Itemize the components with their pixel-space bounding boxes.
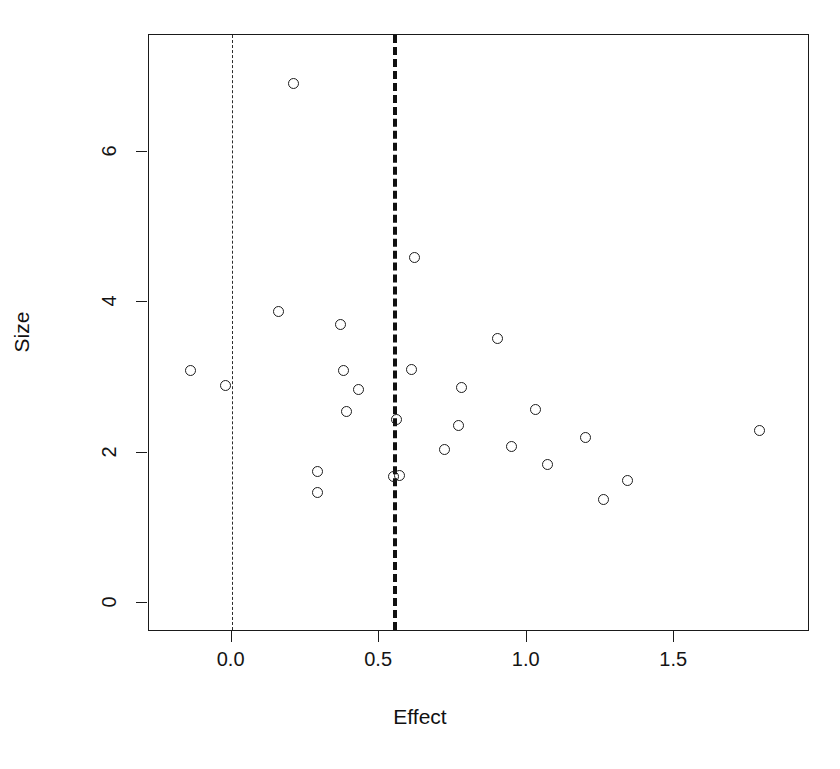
- data-point: [394, 470, 405, 481]
- y-axis-label: Size: [10, 312, 34, 353]
- x-axis-label: Effect: [0, 705, 840, 729]
- data-point: [439, 444, 450, 455]
- y-axis-tick: [136, 602, 147, 603]
- x-axis-tick-label: 0.0: [217, 648, 245, 671]
- y-axis-tick: [136, 151, 147, 152]
- data-point: [530, 404, 541, 415]
- plot-panel: [148, 34, 809, 631]
- data-point: [456, 382, 467, 393]
- data-point: [506, 441, 517, 452]
- y-axis-tick-label: 0: [98, 597, 121, 608]
- x-axis-tick: [526, 631, 527, 642]
- data-point: [288, 78, 299, 89]
- data-point: [341, 406, 352, 417]
- data-point: [542, 459, 553, 470]
- data-point: [273, 306, 284, 317]
- data-point: [492, 333, 503, 344]
- x-axis-tick: [673, 631, 674, 642]
- data-point: [754, 425, 765, 436]
- data-point: [391, 414, 402, 425]
- data-point: [598, 494, 609, 505]
- data-point: [453, 420, 464, 431]
- data-point: [622, 475, 633, 486]
- x-axis-tick: [378, 631, 379, 642]
- x-axis-tick: [231, 631, 232, 642]
- x-axis-tick-label: 0.5: [364, 648, 392, 671]
- data-point: [353, 384, 364, 395]
- x-axis-tick-label: 1.0: [512, 648, 540, 671]
- data-point: [409, 252, 420, 263]
- scatter-points-layer: [149, 35, 808, 630]
- data-point: [220, 380, 231, 391]
- y-axis-tick-label: 2: [98, 446, 121, 457]
- y-axis-tick-label: 6: [98, 145, 121, 156]
- funnel-plot-figure: 0.00.51.01.5 0246 Effect Size: [0, 0, 840, 769]
- y-axis-tick: [136, 452, 147, 453]
- y-axis-tick-label: 4: [98, 296, 121, 307]
- data-point: [406, 364, 417, 375]
- data-point: [312, 487, 323, 498]
- data-point: [338, 365, 349, 376]
- y-axis-tick: [136, 301, 147, 302]
- data-point: [335, 319, 346, 330]
- data-point: [312, 466, 323, 477]
- x-axis-tick-label: 1.5: [659, 648, 687, 671]
- data-point: [580, 432, 591, 443]
- data-point: [185, 365, 196, 376]
